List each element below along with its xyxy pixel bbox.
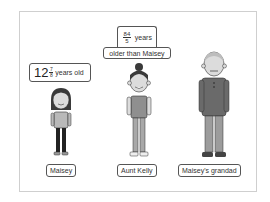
- age-fraction: 7 8: [49, 67, 53, 78]
- grandad-figure: [198, 50, 230, 160]
- difference-fraction-row: 84 5 years: [117, 26, 157, 48]
- difference-fraction: 84 5: [123, 31, 131, 44]
- aunt-kelly-age-difference-label: 84 5 years older than Maisey: [103, 26, 171, 58]
- maisey-figure: [46, 86, 76, 158]
- aunt-kelly-name-label: Aunt Kelly: [117, 164, 157, 177]
- difference-text-row: older than Maisey: [103, 47, 171, 59]
- maisey-name-label: Maisey: [46, 164, 76, 177]
- difference-suffix: years: [135, 34, 152, 41]
- grandad-name-label: Maisey's grandad: [178, 164, 241, 177]
- difference-fraction-numerator: 84: [123, 31, 131, 38]
- difference-fraction-denominator: 5: [125, 38, 128, 44]
- age-suffix: years old: [55, 69, 83, 76]
- aunt-kelly-figure: [124, 62, 154, 158]
- age-fraction-denominator: 8: [50, 73, 53, 78]
- age-whole-number: 12: [34, 66, 48, 79]
- maisey-age-label: 12 7 8 years old: [29, 63, 91, 82]
